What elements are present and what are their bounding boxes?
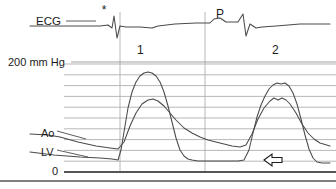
beat-1-label: 1 xyxy=(137,44,144,56)
waveform-traces: * xyxy=(30,3,330,163)
ecg-label: ECG xyxy=(36,16,61,28)
left-arrow-icon xyxy=(264,154,282,166)
lvedp-arrow-annotation xyxy=(264,154,282,166)
trace-ao xyxy=(30,98,330,149)
asterisk-marker: * xyxy=(102,3,107,17)
zero-baseline-axis xyxy=(0,172,336,181)
pressure-gridlines xyxy=(64,64,336,172)
beat-2-label: 2 xyxy=(272,44,279,56)
label-leader-lines xyxy=(57,21,336,157)
p-wave-label: P xyxy=(216,8,224,20)
aortic-pressure-label: Ao xyxy=(41,128,54,139)
hemodynamic-tracing-figure: * ECG 200 mm Hg 0 Ao LV 1 2 P xyxy=(0,0,336,189)
pressure-scale-label: 200 mm Hg xyxy=(8,57,65,68)
trace-ecg xyxy=(30,14,330,38)
tracing-canvas: * xyxy=(0,0,336,189)
lv-pressure-label: LV xyxy=(41,147,54,158)
zero-baseline-label: 0 xyxy=(52,166,58,177)
timing-vertical-lines xyxy=(120,12,205,172)
